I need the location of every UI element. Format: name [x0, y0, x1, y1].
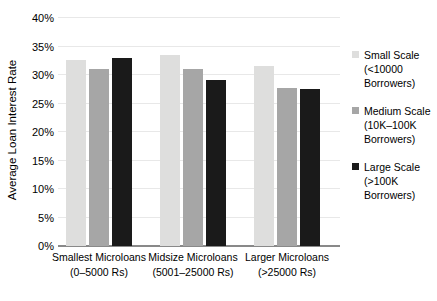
legend-swatch-icon — [352, 163, 359, 170]
legend-swatch-icon — [352, 51, 359, 58]
x-axis-tick-label-line1: Larger Microloans — [245, 251, 329, 263]
bar — [206, 80, 226, 246]
legend-label-line3: Borrowers) — [364, 188, 437, 202]
y-axis-tick-label: 5% — [2, 212, 54, 224]
bar-group — [152, 18, 246, 246]
legend-label-line1: Medium Scale — [364, 104, 437, 118]
legend-label-line3: Borrowers) — [364, 132, 437, 146]
bar — [183, 69, 203, 246]
x-axis-tick-label-line2: (>25000 Rs) — [233, 265, 341, 280]
bar — [254, 66, 274, 246]
x-axis-tick-label: Midsize Microloans(5001–25000 Rs) — [139, 250, 247, 280]
y-axis-tick-label: 35% — [2, 41, 54, 53]
x-axis-tick-label-line2: (5001–25000 Rs) — [139, 265, 247, 280]
legend-entry[interactable]: Small Scale(<10000Borrowers) — [352, 48, 437, 90]
bar-chart: Average Loan Interest Rate 40%35%30%25%2… — [0, 0, 437, 301]
y-axis-tick-labels: 40%35%30%25%20%15%10%5%0% — [0, 18, 54, 246]
legend-swatch-icon — [352, 107, 359, 114]
y-axis-tick-label: 40% — [2, 12, 54, 24]
legend: Small Scale(<10000Borrowers)Medium Scale… — [352, 48, 437, 216]
legend-label-line2: (>100K — [364, 174, 437, 188]
x-axis-tick-label-line2: (0–5000 Rs) — [45, 265, 153, 280]
y-axis-tick-label: 20% — [2, 126, 54, 138]
x-axis-tick-label-line1: Midsize Microloans — [148, 251, 237, 263]
legend-label: Medium Scale(10K–100KBorrowers) — [364, 104, 437, 146]
x-axis-tick-label-line1: Smallest Microloans — [52, 251, 146, 263]
bar-group — [58, 18, 152, 246]
bar — [89, 69, 109, 246]
bar — [66, 60, 86, 246]
legend-label-line1: Small Scale — [364, 48, 437, 62]
y-axis-tick-label: 10% — [2, 183, 54, 195]
bar — [160, 55, 180, 246]
bar — [277, 88, 297, 246]
bar — [112, 58, 132, 246]
x-axis-tick-label: Larger Microloans(>25000 Rs) — [233, 250, 341, 280]
bar-group — [246, 18, 340, 246]
x-axis-tick-label: Smallest Microloans(0–5000 Rs) — [45, 250, 153, 280]
legend-label-line3: Borrowers) — [364, 76, 437, 90]
legend-label-line2: (10K–100K — [364, 118, 437, 132]
legend-entry[interactable]: Large Scale(>100KBorrowers) — [352, 160, 437, 202]
y-axis-tick-label: 25% — [2, 98, 54, 110]
legend-label-line2: (<10000 — [364, 62, 437, 76]
plot-area — [58, 18, 340, 246]
y-axis-tick-label: 30% — [2, 69, 54, 81]
bar — [300, 89, 320, 246]
legend-label: Large Scale(>100KBorrowers) — [364, 160, 437, 202]
y-axis-tick-label: 15% — [2, 155, 54, 167]
legend-label-line1: Large Scale — [364, 160, 437, 174]
x-axis-tick-labels: Smallest Microloans(0–5000 Rs)Midsize Mi… — [58, 250, 340, 294]
legend-entry[interactable]: Medium Scale(10K–100KBorrowers) — [352, 104, 437, 146]
legend-label: Small Scale(<10000Borrowers) — [364, 48, 437, 90]
